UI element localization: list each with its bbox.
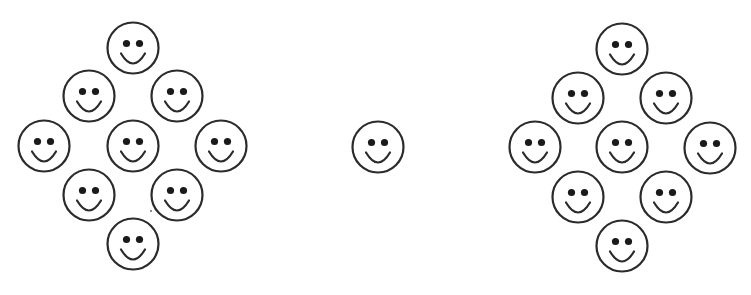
right-eye <box>625 41 632 48</box>
smiley-face-icon <box>64 170 115 221</box>
left-eye <box>123 236 130 243</box>
left-eye <box>612 41 619 48</box>
face-outline <box>353 122 404 173</box>
right-eye <box>136 138 143 145</box>
smiley-face-icon <box>641 73 692 124</box>
left-eye <box>34 138 41 145</box>
face-outline <box>510 122 561 173</box>
face-outline <box>553 172 604 223</box>
right-eye <box>180 88 187 95</box>
face-outline <box>19 121 70 172</box>
face-outline <box>641 73 692 124</box>
left-eye <box>123 138 130 145</box>
left-eye <box>123 40 130 47</box>
smiley-face-icon <box>510 122 561 173</box>
smiley-face-icon <box>108 219 159 270</box>
smiley-face-icon <box>597 122 648 173</box>
smiley-face-icon <box>196 121 247 172</box>
left-eye <box>79 187 86 194</box>
right-eye <box>669 90 676 97</box>
right-eye <box>180 187 187 194</box>
smiley-face-icon <box>152 71 203 122</box>
face-outline <box>108 121 159 172</box>
smiley-figure <box>0 0 751 295</box>
smiley-face-icon <box>641 172 692 223</box>
face-outline <box>108 219 159 270</box>
face-outline <box>685 123 736 174</box>
face-outline <box>553 73 604 124</box>
left-eye <box>167 88 174 95</box>
group-single-center <box>353 122 404 173</box>
left-eye <box>167 187 174 194</box>
right-eye <box>224 138 231 145</box>
right-eye <box>92 187 99 194</box>
smiley-face-icon <box>64 71 115 122</box>
right-eye <box>92 88 99 95</box>
right-eye <box>538 139 545 146</box>
left-eye <box>79 88 86 95</box>
smiley-face-icon <box>152 170 203 221</box>
face-outline <box>64 71 115 122</box>
right-eye <box>136 40 143 47</box>
face-outline <box>108 23 159 74</box>
face-outline <box>152 170 203 221</box>
face-outline <box>64 170 115 221</box>
right-eye <box>713 140 720 147</box>
left-eye <box>568 90 575 97</box>
smiley-face-icon <box>553 73 604 124</box>
smiley-face-icon <box>353 122 404 173</box>
face-outline <box>152 71 203 122</box>
left-eye <box>700 140 707 147</box>
face-outline <box>196 121 247 172</box>
left-eye <box>568 189 575 196</box>
left-eye <box>612 139 619 146</box>
left-eye <box>612 238 619 245</box>
smiley-face-icon <box>108 23 159 74</box>
artifacts <box>150 210 152 212</box>
speck <box>150 210 152 212</box>
smiley-face-icon <box>597 24 648 75</box>
right-eye <box>47 138 54 145</box>
right-eye <box>669 189 676 196</box>
left-eye <box>656 189 663 196</box>
face-outline <box>597 221 648 272</box>
face-outline <box>597 24 648 75</box>
smiley-face-icon <box>597 221 648 272</box>
right-eye <box>581 90 588 97</box>
left-eye <box>368 139 375 146</box>
right-eye <box>625 139 632 146</box>
right-eye <box>136 236 143 243</box>
smiley-face-icon <box>19 121 70 172</box>
left-eye <box>656 90 663 97</box>
right-eye <box>581 189 588 196</box>
smiley-face-icon <box>685 123 736 174</box>
face-outline <box>597 122 648 173</box>
face-outline <box>641 172 692 223</box>
right-eye <box>381 139 388 146</box>
left-eye <box>211 138 218 145</box>
smiley-face-icon <box>553 172 604 223</box>
left-eye <box>525 139 532 146</box>
right-eye <box>625 238 632 245</box>
smiley-face-icon <box>108 121 159 172</box>
